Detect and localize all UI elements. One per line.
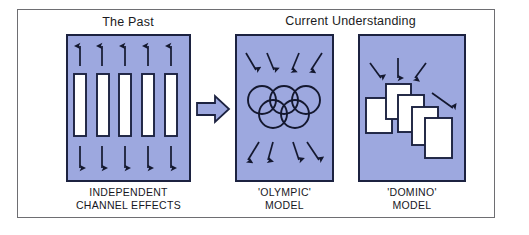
arrow-group-up — [80, 46, 171, 66]
domino-group — [366, 84, 452, 158]
channel-1 — [74, 74, 86, 136]
arrow-group-top-converging — [246, 53, 322, 70]
arrow-bottom-3 — [293, 142, 299, 160]
arrow-top-2 — [267, 53, 274, 70]
arrow-top-4 — [311, 53, 322, 70]
arrow-bottom-4 — [307, 142, 319, 160]
caption-olympic-model: 'OLYMPIC' MODEL — [235, 186, 334, 211]
independent-channels-diagram — [68, 36, 189, 180]
caption-independent-channel-effects: INDEPENDENT CHANNEL EFFECTS — [56, 186, 201, 211]
channel-5 — [165, 74, 177, 136]
arrow-group-down — [80, 146, 171, 168]
olympic-rings-diagram — [237, 36, 332, 180]
panel-domino-model — [358, 34, 466, 182]
arrow-top-1 — [246, 53, 256, 70]
heading-the-past: The Past — [65, 15, 191, 29]
arrow-domino-3 — [415, 63, 426, 78]
domino-5 — [425, 118, 452, 158]
channel-3 — [119, 74, 131, 136]
heading-current-understanding: Current Understanding — [235, 14, 466, 28]
channel-group — [74, 74, 177, 136]
arrow-group-bottom-diverging — [248, 142, 319, 160]
figure-root: The Past Current Understanding — [0, 0, 529, 235]
panel-independent-channels — [66, 34, 191, 182]
falling-dominoes-diagram — [360, 36, 464, 180]
arrow-domino-1 — [370, 63, 381, 78]
ring-group — [248, 86, 320, 128]
arrow-domino-4 — [432, 93, 453, 108]
arrow-bottom-2 — [268, 142, 273, 160]
caption-domino-model: 'DOMINO' MODEL — [355, 186, 469, 211]
channel-2 — [97, 74, 109, 136]
panel-olympic-model — [235, 34, 334, 182]
block-arrow-right-icon — [196, 92, 230, 126]
channel-4 — [142, 74, 154, 136]
arrow-bottom-1 — [248, 142, 259, 160]
arrow-top-3 — [292, 53, 299, 70]
